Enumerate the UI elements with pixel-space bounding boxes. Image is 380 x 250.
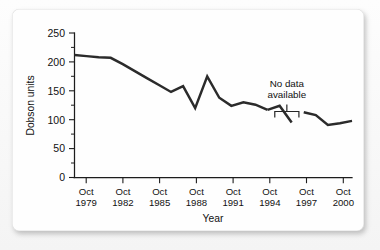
ozone-line-chart: 250 200 150 100 50 0 Dobson units [12, 9, 364, 231]
x-tick-label-year: 1982 [112, 197, 133, 208]
no-data-annotation-line2: available [268, 89, 307, 100]
y-tick-label: 250 [47, 27, 65, 39]
x-tick-label-year: 1979 [76, 197, 97, 208]
x-tick-label-year: 1985 [149, 197, 170, 208]
x-axis-title: Year [203, 213, 224, 224]
x-tick-label-month: Oct [115, 186, 130, 197]
y-tick-label: 200 [47, 56, 65, 68]
x-tick-label-month: Oct [152, 186, 167, 197]
x-axis-tick-labels: Oct 1979 Oct 1982 Oct 1985 Oct 1988 Oct … [76, 186, 354, 208]
x-tick-label-year: 1997 [296, 197, 317, 208]
plot-area: 250 200 150 100 50 0 Dobson units [12, 9, 364, 231]
y-tick-label: 50 [53, 142, 65, 154]
no-data-annotation-line1: No data [270, 78, 305, 89]
x-tick-label-year: 1988 [186, 197, 207, 208]
x-tick-label-year: 2000 [333, 197, 354, 208]
x-tick-label-month: Oct [189, 186, 204, 197]
x-axis-ticks [86, 178, 343, 184]
data-line-segment-pre-gap-tail [268, 106, 292, 123]
x-tick-label-month: Oct [299, 186, 314, 197]
x-tick-label-month: Oct [79, 186, 94, 197]
x-tick-label-year: 1991 [222, 197, 243, 208]
y-tick-label: 0 [59, 171, 65, 183]
x-tick-label-month: Oct [226, 186, 241, 197]
figure-card: 250 200 150 100 50 0 Dobson units [12, 9, 364, 231]
y-axis-title: Dobson units [25, 75, 36, 135]
y-tick-label: 150 [47, 85, 65, 97]
y-tick-label: 100 [47, 114, 65, 126]
x-tick-label-year: 1994 [259, 197, 281, 208]
x-tick-label-month: Oct [336, 186, 351, 197]
data-line-segment-post-gap [304, 112, 352, 125]
x-tick-label-month: Oct [262, 186, 277, 197]
data-line-segment-pre-gap [75, 55, 268, 110]
y-axis-tick-labels: 250 200 150 100 50 0 [47, 27, 65, 184]
screenshot-root: 250 200 150 100 50 0 Dobson units [0, 0, 380, 250]
